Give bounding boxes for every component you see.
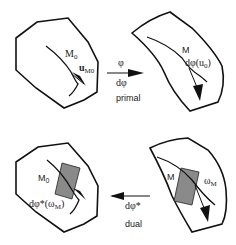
primal-map-label: φ [118,57,124,68]
primal-dual-diagram: M0 uM0 φ dφ primal M dφ(u0) M0 dφ*(ωM) d… [0,0,236,245]
panel-bottom-left: M0 dφ*(ωM) [16,143,98,232]
point-label-m: M [182,45,190,55]
panel-bottom-right: M ωM [150,138,227,232]
panel-top-left: M0 uM0 [16,18,98,108]
point-label-m0: M0 [65,48,78,61]
form-label-omega-m: ωM [204,175,218,188]
dual-arrow: dφ* dual [110,192,150,229]
dual-map-label: dφ* [125,200,141,211]
point-label-m0-dual: M0 [38,173,50,184]
pushforward-vector-arrowhead [193,84,203,101]
covector-patch [55,163,80,199]
vector-label-u-m0: uM0 [79,62,95,75]
primal-differential-label: dφ [116,77,127,88]
arrow-left-icon [110,192,124,200]
point-label-m-dual: M [167,172,175,182]
manifold-m0-outline [16,18,98,108]
arrow-right-icon [128,69,144,77]
panel-top-right: M dφ(u0) [132,12,223,111]
pullback-form-label: dφ*(ωM) [29,198,64,211]
primal-arrow: φ dφ primal [107,57,144,103]
dual-caption: dual [125,219,142,229]
primal-caption: primal [116,93,141,103]
vector-arrowhead-dual [200,205,210,222]
